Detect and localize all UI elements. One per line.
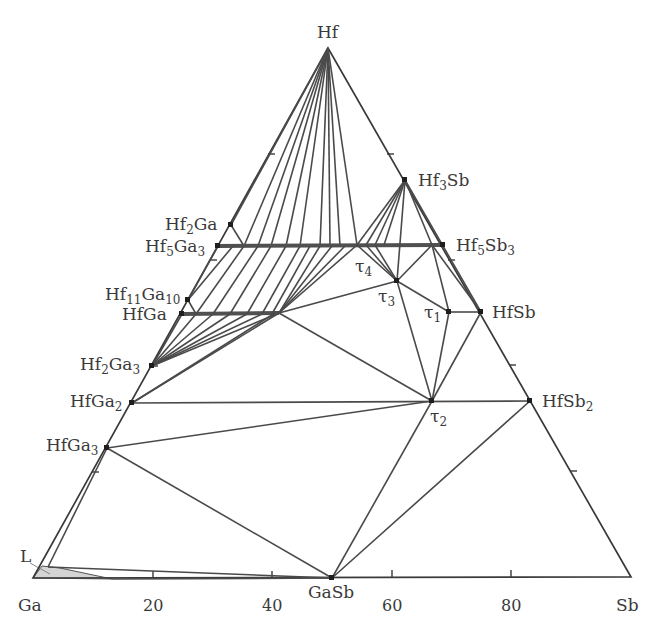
label-hf: Hf xyxy=(317,22,340,42)
tie-lines-hf2ga xyxy=(231,225,244,246)
label-hfsb: HfSb xyxy=(492,302,536,322)
point-hf5sb3 xyxy=(440,242,445,247)
label-tau2: τ2 xyxy=(430,406,447,429)
point-hf2ga xyxy=(228,222,233,227)
ternary-phase-diagram: Hf Ga Sb 20 40 60 80 Hf2Ga Hf5Ga3 Hf11Ga… xyxy=(0,0,657,630)
tick-label-60: 60 xyxy=(382,596,402,615)
point-hf5ga3 xyxy=(215,243,220,248)
label-tau3: τ3 xyxy=(378,286,395,309)
point-gasb xyxy=(329,575,334,580)
label-tau4: τ4 xyxy=(355,256,372,279)
point-tau1 xyxy=(446,309,451,314)
point-hfsb xyxy=(478,309,483,314)
point-hf11ga10 xyxy=(185,297,190,302)
tie-lines-hf-fan xyxy=(231,48,357,246)
label-hf2ga: Hf2Ga xyxy=(165,214,217,237)
tick-label-80: 80 xyxy=(501,596,521,615)
point-hf2ga3 xyxy=(149,363,154,368)
point-hfga2 xyxy=(129,400,134,405)
tie-lines-tau xyxy=(107,281,530,578)
label-hfga3: HfGa3 xyxy=(46,435,98,458)
label-hf5sb3: Hf5Sb3 xyxy=(456,235,515,258)
tick-label-40: 40 xyxy=(262,596,282,615)
point-tau3 xyxy=(394,278,399,283)
label-hfsb2: HfSb2 xyxy=(542,391,593,414)
tie-lines-mid xyxy=(188,245,357,314)
point-hf3sb xyxy=(402,177,407,182)
point-hfga3 xyxy=(104,445,109,450)
label-gasb: GaSb xyxy=(308,582,354,602)
label-sb: Sb xyxy=(616,595,639,615)
label-hfga2: HfGa2 xyxy=(70,391,122,414)
label-liquid: L xyxy=(20,546,31,566)
label-hf3sb: Hf3Sb xyxy=(418,170,469,193)
hf5ga3-hf5sb3-line xyxy=(218,245,443,246)
label-hf2ga3: Hf2Ga3 xyxy=(80,354,140,377)
label-hf5ga3: Hf5Ga3 xyxy=(145,236,205,259)
label-ga: Ga xyxy=(18,595,42,615)
point-hfga xyxy=(179,311,184,316)
point-tau2 xyxy=(429,398,434,403)
label-hfga: HfGa xyxy=(122,304,167,324)
tick-label-20: 20 xyxy=(143,596,163,615)
point-hfsb2 xyxy=(527,398,532,403)
